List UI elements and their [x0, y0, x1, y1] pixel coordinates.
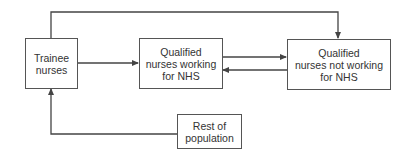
edge-trainee-to-not-nhs: [51, 12, 338, 38]
node-label-line: for NHS: [295, 71, 383, 83]
node-label-line: Rest of: [185, 120, 233, 132]
flow-diagram: Trainee nurses Qualified nurses working …: [0, 0, 409, 164]
node-label-line: nurses: [34, 64, 69, 76]
node-label-line: Trainee: [34, 52, 69, 64]
node-label-line: population: [185, 132, 233, 144]
node-trainee-nurses: Trainee nurses: [25, 38, 78, 89]
node-qualified-not-nhs: Qualified nurses not working for NHS: [287, 39, 391, 90]
node-label-line: Qualified: [295, 47, 383, 59]
node-label-line: nurses working: [146, 58, 217, 70]
node-label-line: for NHS: [146, 70, 217, 82]
node-label-line: nurses not working: [295, 59, 383, 71]
node-qualified-nhs: Qualified nurses working for NHS: [139, 38, 223, 89]
edge-rest-to-trainee: [51, 89, 177, 134]
node-rest-of-population: Rest of population: [177, 114, 242, 149]
node-label-line: Qualified: [146, 46, 217, 58]
